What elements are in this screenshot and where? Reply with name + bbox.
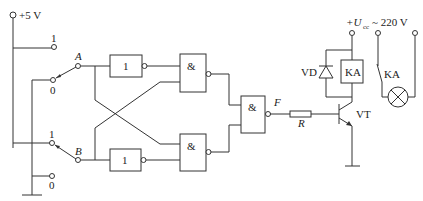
ucc-label: +U cc ~ 220 V [346,16,408,31]
svg-text:VT: VT [356,108,371,120]
supply-rail: +5 V [10,9,41,148]
switch-a-pos-0: 0 [50,84,56,96]
diode-vd: VD [301,66,333,78]
nand-gate-output: & F [241,96,290,133]
switch-b-label: B [75,145,82,157]
svg-text:&: & [187,60,196,72]
supply-label: +5 V [19,9,41,21]
svg-text:R: R [297,117,305,129]
svg-text:VD: VD [301,66,317,78]
svg-text:&: & [248,101,257,113]
svg-text:&: & [187,140,196,152]
transistor-vt: VT [339,102,371,166]
switch-b-pos-0: 0 [49,179,55,191]
resistor: R [290,111,339,129]
switch-a-label: A [74,50,82,62]
switch-a: 1 0 A [13,32,110,195]
svg-text:KA: KA [384,68,400,80]
svg-text:1: 1 [122,154,128,166]
svg-text:1: 1 [123,60,129,72]
not-gate-a: 1 [110,55,180,77]
output-f-label: F [273,96,281,108]
svg-text:KA: KA [345,66,361,78]
nand-gate-bottom: & [180,125,241,171]
svg-text:~ 220 V: ~ 220 V [372,16,408,28]
nand-gate-top: & [180,54,241,105]
switch-a-pos-1: 1 [51,32,57,44]
svg-text:+U: +U [346,16,362,28]
circuit-diagram: +5 V 1 0 A 1 0 B 1 [0,0,423,201]
svg-text:cc: cc [363,23,369,31]
cross-wires [95,66,180,160]
relay-contact-lamp: KA [376,31,418,108]
not-gate-b: 1 [110,149,180,171]
switch-b-pos-1: 1 [49,128,55,140]
